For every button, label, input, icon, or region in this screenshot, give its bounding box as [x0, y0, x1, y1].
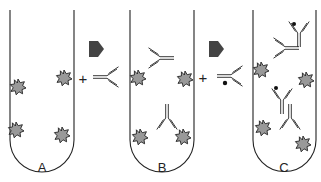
bound-antibody-icon	[157, 104, 177, 130]
antigen-icon	[10, 79, 26, 95]
tube-c	[253, 10, 316, 172]
antigen-icon	[175, 129, 191, 145]
antigen-icon	[295, 136, 311, 152]
antigen-icon	[56, 70, 72, 86]
antigen-icon	[298, 72, 314, 88]
bound-antibody-icon	[274, 38, 300, 58]
plus-sign-2: +	[199, 70, 208, 85]
label-dot-icon	[223, 81, 227, 85]
labeled-antibody-icon	[217, 66, 243, 86]
process-arrow-icon	[89, 41, 104, 57]
diagram-canvas: + + A B C	[0, 0, 321, 182]
bound-antibody-icon	[149, 48, 175, 68]
tube-label-a: A	[38, 160, 47, 175]
plus-sign-1: +	[79, 71, 88, 86]
antigen-icon	[54, 127, 70, 143]
primary-antibody-icon	[93, 67, 119, 87]
antigen-icon	[177, 71, 193, 87]
labeled-antibody-icon	[289, 22, 309, 48]
process-arrow-icon	[209, 41, 224, 57]
label-dot-icon	[292, 22, 296, 26]
label-dot-icon	[274, 86, 278, 90]
tube-b	[130, 10, 194, 172]
tube-label-b: B	[158, 160, 167, 175]
antigen-icon	[8, 122, 24, 138]
tube-a	[8, 10, 74, 172]
antigen-icon	[130, 70, 146, 86]
tube-label-c: C	[279, 160, 288, 175]
antigen-icon	[132, 129, 148, 145]
antigen-icon	[255, 120, 271, 136]
antigen-icon	[253, 62, 269, 78]
